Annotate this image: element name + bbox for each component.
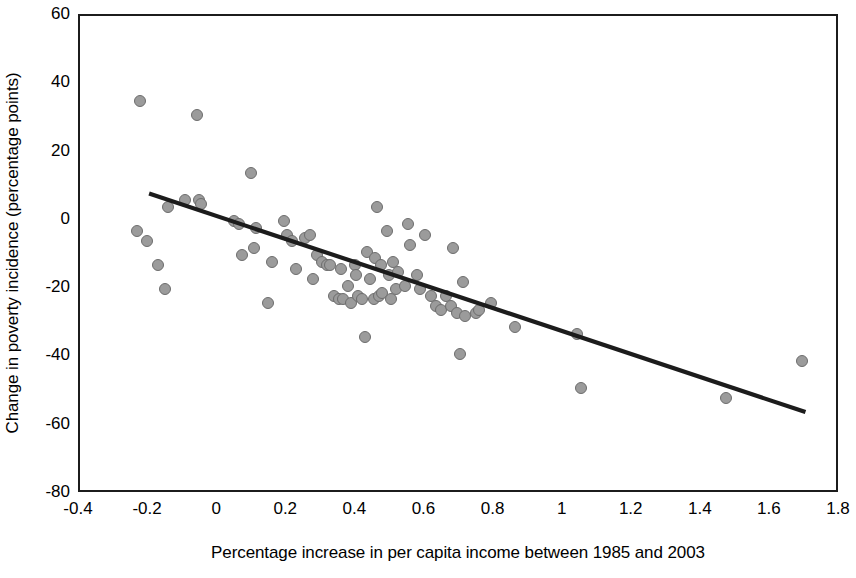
scatter-point xyxy=(381,225,393,237)
scatter-point xyxy=(236,249,248,261)
scatter-point xyxy=(141,235,153,247)
x-tick-label: 0.4 xyxy=(319,500,389,517)
scatter-point xyxy=(457,276,469,288)
scatter-point xyxy=(134,95,146,107)
y-tick-label: -80 xyxy=(10,483,70,500)
scatter-point xyxy=(262,297,274,309)
scatter-point xyxy=(162,201,174,213)
scatter-point xyxy=(371,201,383,213)
x-tick-label: 1.6 xyxy=(734,500,804,517)
x-tick-label: 0.8 xyxy=(458,500,528,517)
y-tick-label: 20 xyxy=(10,142,70,159)
scatter-point xyxy=(720,392,732,404)
plot-inner xyxy=(80,16,836,490)
scatter-point xyxy=(399,280,411,292)
scatter-point xyxy=(248,242,260,254)
scatter-point xyxy=(290,263,302,275)
x-tick-label: 0.2 xyxy=(250,500,320,517)
scatter-point xyxy=(195,198,207,210)
x-tick-label: -0.2 xyxy=(112,500,182,517)
scatter-point xyxy=(152,259,164,271)
x-tick-label: 1.2 xyxy=(596,500,666,517)
scatter-point xyxy=(307,273,319,285)
scatter-point xyxy=(356,293,368,305)
scatter-point xyxy=(335,263,347,275)
scatter-point xyxy=(485,297,497,309)
x-axis-title: Percentage increase in per capita income… xyxy=(78,543,838,563)
scatter-point xyxy=(179,194,191,206)
scatter-point xyxy=(350,269,362,281)
scatter-point xyxy=(454,348,466,360)
scatter-point xyxy=(571,328,583,340)
y-tick-label: 0 xyxy=(10,210,70,227)
scatter-point xyxy=(509,321,521,333)
scatter-point xyxy=(342,280,354,292)
scatter-point xyxy=(266,256,278,268)
scatter-point xyxy=(159,283,171,295)
trend-line-segment xyxy=(149,194,805,413)
y-tick-label: 60 xyxy=(10,5,70,22)
scatter-point xyxy=(796,355,808,367)
scatter-point xyxy=(575,382,587,394)
plot-area xyxy=(78,14,838,492)
scatter-point xyxy=(411,269,423,281)
scatter-point xyxy=(359,331,371,343)
x-tick-label: -0.4 xyxy=(43,500,113,517)
x-tick-label: 1 xyxy=(527,500,597,517)
x-tick-label: 0 xyxy=(181,500,251,517)
scatter-point xyxy=(245,167,257,179)
y-tick-label: -60 xyxy=(10,415,70,432)
scatter-chart-figure: Change in poverty incidence (percentage … xyxy=(0,0,856,578)
x-tick-label: 1.8 xyxy=(803,500,856,517)
y-tick-label: 40 xyxy=(10,73,70,90)
scatter-point xyxy=(304,229,316,241)
x-tick-label: 0.6 xyxy=(388,500,458,517)
scatter-point xyxy=(250,222,262,234)
scatter-point xyxy=(447,242,459,254)
y-tick-label: -20 xyxy=(10,278,70,295)
scatter-point xyxy=(278,215,290,227)
x-tick-label: 1.4 xyxy=(665,500,735,517)
scatter-point xyxy=(404,239,416,251)
scatter-point xyxy=(402,218,414,230)
scatter-point xyxy=(364,273,376,285)
trend-line xyxy=(80,16,836,490)
scatter-point xyxy=(385,293,397,305)
scatter-point xyxy=(286,235,298,247)
scatter-point xyxy=(191,109,203,121)
scatter-point xyxy=(233,218,245,230)
scatter-point xyxy=(473,304,485,316)
scatter-point xyxy=(131,225,143,237)
scatter-point xyxy=(419,229,431,241)
scatter-point xyxy=(392,266,404,278)
y-tick-label: -40 xyxy=(10,346,70,363)
